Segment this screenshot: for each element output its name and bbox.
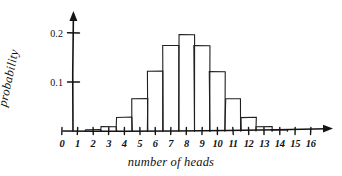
- x-tick-label: 16: [306, 138, 316, 149]
- x-tick-label: 0: [60, 138, 65, 149]
- histogram-bar: [194, 45, 210, 131]
- x-tick-label: 6: [153, 138, 158, 149]
- histogram-bar: [163, 46, 179, 132]
- x-tick-label: 10: [213, 138, 223, 149]
- y-tick-label: 0.2: [0, 28, 63, 39]
- x-tick-label: 11: [228, 138, 237, 149]
- x-tick-label: 2: [91, 138, 96, 149]
- histogram-bar: [225, 99, 241, 131]
- x-tick-label: 9: [199, 138, 204, 149]
- x-axis-title: number of heads: [128, 155, 214, 170]
- histogram-bar: [209, 71, 225, 131]
- x-tick-label: 14: [275, 138, 285, 149]
- histogram-bar: [147, 71, 162, 131]
- histogram-figure: 012345678910111213141516 0.10.2 number o…: [0, 0, 342, 176]
- x-tick-label: 15: [290, 138, 300, 149]
- histogram-bar: [179, 35, 195, 132]
- x-tick-label: 3: [106, 138, 111, 149]
- x-tick-label: 5: [137, 138, 142, 149]
- x-tick-label: 4: [122, 138, 127, 149]
- x-tick-label: 13: [259, 138, 269, 149]
- x-tick-label: 7: [168, 138, 173, 149]
- x-tick-mark: [233, 128, 234, 135]
- bars-group: [85, 35, 288, 132]
- up-arrow-icon: [69, 11, 77, 21]
- x-tick-label: 1: [75, 138, 80, 149]
- histogram-bar: [132, 98, 148, 131]
- plot-canvas: [0, 0, 342, 176]
- axes-group: [63, 11, 333, 132]
- x-tick-label: 12: [244, 138, 254, 149]
- x-tick-label: 8: [184, 138, 189, 149]
- right-arrow-icon: [323, 125, 333, 133]
